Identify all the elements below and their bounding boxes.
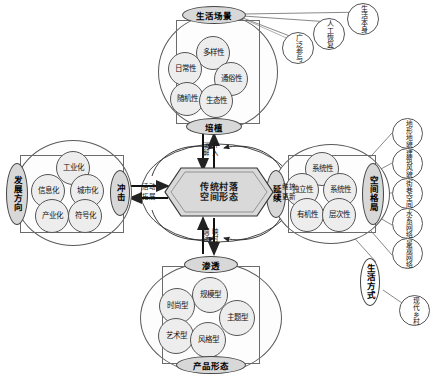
satellite-label: 街巷空间 xyxy=(404,180,411,208)
satellite-circle[interactable]: 地形地貌 xyxy=(392,118,423,149)
attr-label: 符号化 xyxy=(75,212,96,220)
satellite-circle[interactable]: 水系网络 xyxy=(392,208,423,239)
satellite-circle[interactable]: 人工恢复 xyxy=(313,18,345,50)
attr-label: 日常性 xyxy=(175,65,196,73)
arrow-label-top: 消解 介入 xyxy=(191,136,227,162)
cluster-right-cap-right[interactable]: 空间格局 xyxy=(362,163,384,225)
cap-label: 渗透 xyxy=(202,259,220,271)
cluster-bottom-cap-top[interactable]: 渗透 xyxy=(184,256,238,273)
cap-label: 产品形态 xyxy=(193,359,229,371)
cluster-top-cap-bottom[interactable]: 培植 xyxy=(186,118,242,135)
satellite-label: 建筑风貌 xyxy=(404,150,411,178)
attr-label: 系统性 xyxy=(312,165,333,173)
satellite-circle[interactable]: 建筑风貌 xyxy=(392,148,423,179)
attr-label: 信息化 xyxy=(38,187,59,195)
arrow-label-bottom-left: 调适 xyxy=(201,228,208,242)
attr-circle[interactable]: 符号化 xyxy=(68,199,102,233)
cap-label: 发展方向 xyxy=(13,176,22,212)
attr-label: 有机性 xyxy=(297,211,318,219)
cluster-left-cap-left[interactable]: 发展方向 xyxy=(6,163,28,225)
attr-label: 系统性 xyxy=(330,186,351,194)
attr-label: 生态性 xyxy=(206,97,227,105)
arrow-label-left: 活动 拓展 xyxy=(132,178,166,206)
center-label-line2: 空间形态 xyxy=(200,192,238,202)
attr-circle[interactable]: 风格型 xyxy=(190,322,226,358)
cluster-left-cap-right[interactable]: 冲击 xyxy=(110,170,130,216)
attr-label: 工业化 xyxy=(63,164,84,172)
satellite-circle[interactable]: 街巷空间 xyxy=(392,178,423,209)
attr-circle[interactable]: 生态性 xyxy=(199,84,233,118)
attr-label: 时尚型 xyxy=(167,302,188,310)
cap-label: 冲击 xyxy=(116,184,125,202)
arrow-label-left-top: 活动 xyxy=(142,184,156,191)
attr-label: 层次性 xyxy=(329,211,350,219)
attr-label: 风格型 xyxy=(198,336,219,344)
cap-label: 生活场景 xyxy=(196,9,232,21)
attr-label: 通俗性 xyxy=(221,75,242,83)
attr-label: 规模型 xyxy=(200,291,221,299)
arrow-label-left-bottom: 拓展 xyxy=(142,194,156,201)
arrow-label-bottom: 调适 映衬 xyxy=(191,222,227,248)
attr-label: 主题型 xyxy=(227,314,248,322)
satellite-circle[interactable]: 景观网络 xyxy=(392,238,423,269)
satellite-label: 现代乡村 xyxy=(411,297,418,325)
attr-label: 产业化 xyxy=(42,212,63,220)
arrow-label-right-bottom: 更新 xyxy=(282,194,296,201)
satellite-label: 人工恢复 xyxy=(325,20,332,48)
satellite-label: 景观网络 xyxy=(404,240,411,268)
center-hexagon[interactable]: 传统村落 空间形态 xyxy=(163,166,275,218)
arrow-label-right: 维护 更新 xyxy=(272,178,306,206)
attr-label: 艺术型 xyxy=(166,332,187,340)
attr-label: 随机性 xyxy=(177,95,198,103)
center-hexagon-label: 传统村落 空间形态 xyxy=(163,166,275,218)
cap-label: 培植 xyxy=(205,121,223,133)
satellite-circle[interactable]: 生活本身 xyxy=(347,3,379,35)
arrow-label-top-left: 消解 xyxy=(201,142,208,156)
satellite-label: 生活方式 xyxy=(366,264,375,300)
arrow-label-right-top: 维护 xyxy=(282,184,296,191)
attr-label: 多样性 xyxy=(203,49,224,57)
attr-circle[interactable]: 艺术型 xyxy=(158,318,194,354)
attr-circle[interactable]: 主题型 xyxy=(219,300,255,336)
cap-label: 空间格局 xyxy=(369,176,378,212)
satellite-label: 水系网络 xyxy=(404,210,411,238)
attr-label: 城市化 xyxy=(77,187,98,195)
cluster-top-cap-top[interactable]: 生活场景 xyxy=(182,6,246,24)
center-label-line1: 传统村落 xyxy=(200,182,238,192)
attr-circle[interactable]: 产业化 xyxy=(35,199,69,233)
satellite-circle[interactable]: 广泛参与 xyxy=(282,32,314,64)
satellite-lifestyle[interactable]: 生活方式 xyxy=(360,258,380,306)
satellite-circle[interactable]: 现代乡村 xyxy=(399,295,430,326)
attr-circle[interactable]: 层次性 xyxy=(322,198,356,232)
arrow-label-bottom-right: 映衬 xyxy=(210,228,217,242)
cluster-bottom-cap-bottom[interactable]: 产品形态 xyxy=(176,356,246,374)
arrow-label-top-right: 介入 xyxy=(210,142,217,156)
attr-circle[interactable]: 日常性 xyxy=(168,52,202,86)
satellite-label: 广泛参与 xyxy=(294,34,301,62)
satellite-label: 地形地貌 xyxy=(404,120,411,148)
diagram-canvas: 多样性 日常性 通俗性 随机性 生态性 生活场景 培植 广泛参与 人工恢复 生活… xyxy=(0,0,445,379)
satellite-label: 生活本身 xyxy=(359,5,366,33)
